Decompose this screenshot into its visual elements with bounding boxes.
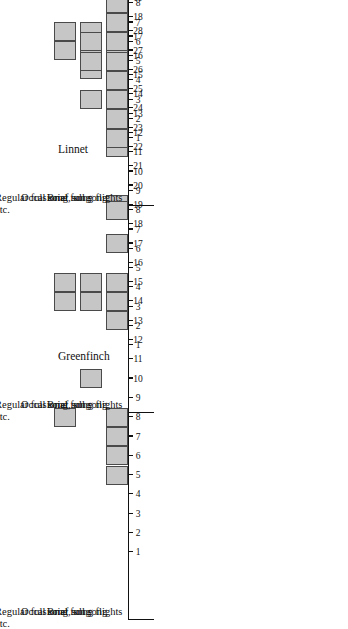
axis-tick-label: 1: [128, 547, 148, 557]
axis-tick-label: 1: [128, 340, 148, 350]
axis-tick-label: 1: [128, 133, 148, 143]
axis-tick-label: 6: [128, 451, 148, 461]
bar: [106, 32, 128, 51]
axis-tick-label: 4: [128, 489, 148, 499]
plot-area: 1234567891011121314151617181920212223242…: [0, 0, 185, 206]
axis-tick-label: 6: [128, 244, 148, 254]
bar: [80, 90, 102, 109]
plot-area: 1234567891011121314151617181920212223242…: [0, 414, 185, 620]
category-label: Brief song: [47, 606, 187, 618]
bar: [106, 13, 128, 32]
plot-area: 1234567891011121314151617181920212223242…: [0, 207, 185, 413]
axis-tick-label: 5: [128, 56, 148, 66]
axis-tick-label: 4: [128, 75, 148, 85]
axis-tick-label: 5: [128, 263, 148, 273]
axis-tick-label: 6: [128, 37, 148, 47]
axis-tick-label: 8: [128, 0, 148, 8]
axis-tick-label: 7: [128, 18, 148, 28]
panel-greenfinch: 1234567891011121314151617181920212223242…: [0, 414, 348, 620]
axis-tick-label: 7: [128, 432, 148, 442]
axis-tick-label: 5: [128, 470, 148, 480]
axis-tick-label: 3: [128, 509, 148, 519]
bar: [106, 52, 128, 71]
category-label: Brief song: [47, 192, 187, 204]
panel-chaffinch: 1234567891011121314151617181920212223242…: [0, 0, 348, 206]
bar: [106, 0, 128, 13]
bar: [106, 71, 128, 90]
panel-linnet: 1234567891011121314151617181920212223242…: [0, 207, 348, 413]
axis-tick-label: 7: [128, 225, 148, 235]
axis-tick-label: 4: [128, 282, 148, 292]
bar: [106, 129, 128, 148]
category-label: Brief song: [47, 399, 187, 411]
bar: [106, 427, 128, 446]
axis-tick-label: 2: [128, 321, 148, 331]
axis-tick-label: 2: [128, 114, 148, 124]
bar: [106, 109, 128, 128]
bar: [106, 466, 128, 485]
bar: [80, 52, 102, 71]
axis-tick-label: 2: [128, 528, 148, 538]
bar: [106, 90, 128, 109]
axis-tick-label: 3: [128, 302, 148, 312]
bar: [80, 32, 102, 51]
axis-tick-label: 3: [128, 95, 148, 105]
bar: [106, 446, 128, 465]
